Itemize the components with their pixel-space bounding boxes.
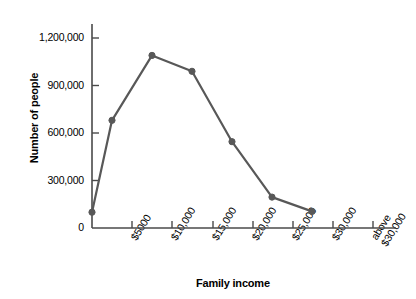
data-point-marker[interactable] (229, 139, 235, 145)
data-point-marker[interactable] (309, 208, 315, 214)
chart-figure: Number of people Family income 0300,0006… (0, 0, 416, 299)
data-point-marker[interactable] (149, 52, 155, 58)
data-point-marker[interactable] (109, 117, 115, 123)
data-point-marker[interactable] (89, 209, 95, 215)
data-point-marker[interactable] (189, 68, 195, 74)
data-point-marker[interactable] (269, 194, 275, 200)
plot-area (0, 0, 416, 299)
data-line (92, 55, 312, 212)
